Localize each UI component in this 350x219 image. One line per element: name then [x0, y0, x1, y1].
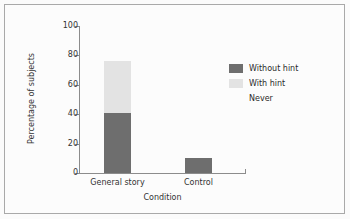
- legend-swatch-with-hint: [229, 79, 243, 88]
- legend-label-without-hint: Without hint: [249, 64, 298, 73]
- y-axis-line: [79, 26, 80, 174]
- y-tick-label-80: 80: [38, 51, 78, 59]
- x-tick-label-general-story: General story: [72, 178, 163, 187]
- legend-swatch-without-hint: [229, 64, 243, 73]
- x-axis-end-tick: [245, 169, 246, 173]
- y-tick-label-20: 20: [38, 140, 78, 148]
- plot-area: 100 80 60 40 20 0 Percentage of subjects…: [0, 0, 350, 219]
- chart-legend: Without hint With hint Never: [229, 61, 298, 106]
- bar-segment: [104, 113, 131, 173]
- y-tick-label-40: 40: [38, 110, 78, 118]
- legend-label-never: Never: [249, 94, 273, 103]
- y-tick-label-0: 0: [38, 169, 78, 177]
- chart-figure: 100 80 60 40 20 0 Percentage of subjects…: [0, 0, 350, 219]
- legend-item-without-hint: Without hint: [229, 61, 298, 76]
- legend-swatch-never: [229, 94, 243, 103]
- y-axis-title: Percentage of subjects: [27, 39, 36, 159]
- bar-segment: [185, 158, 212, 173]
- x-tick-label-control: Control: [163, 178, 234, 187]
- legend-item-with-hint: With hint: [229, 76, 298, 91]
- y-tick-label-60: 60: [38, 81, 78, 89]
- y-tick-label-100: 100: [38, 22, 78, 30]
- legend-item-never: Never: [229, 91, 298, 106]
- legend-label-with-hint: With hint: [249, 79, 285, 88]
- bar-segment: [104, 61, 131, 112]
- x-axis-line: [79, 173, 246, 174]
- x-axis-title: Condition: [79, 193, 246, 202]
